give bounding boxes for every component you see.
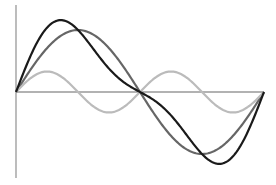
wave-chart (0, 0, 276, 185)
